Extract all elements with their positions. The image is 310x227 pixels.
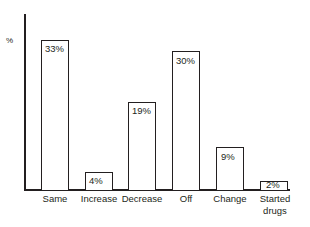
category-label: Change — [205, 193, 255, 205]
y-axis-line — [24, 14, 26, 191]
category-label: Decrease — [115, 193, 169, 205]
bar-value-label: 4% — [89, 175, 103, 186]
category-label: Off — [166, 193, 206, 205]
y-axis-caption: % — [6, 36, 13, 46]
category-label: Started drugs — [250, 193, 300, 216]
bar-chart: % 33%4%19%30%9%2% SameIncreaseDecreaseOf… — [0, 0, 310, 227]
bar-value-label: 19% — [132, 105, 151, 116]
bar — [41, 40, 69, 190]
bar-value-label: 2% — [266, 179, 280, 190]
bar-value-label: 33% — [45, 43, 64, 54]
bar-value-label: 30% — [176, 55, 195, 66]
bar-value-label: 9% — [221, 151, 235, 162]
plot-area: % 33%4%19%30%9%2% SameIncreaseDecreaseOf… — [0, 0, 310, 227]
bar — [172, 51, 200, 190]
